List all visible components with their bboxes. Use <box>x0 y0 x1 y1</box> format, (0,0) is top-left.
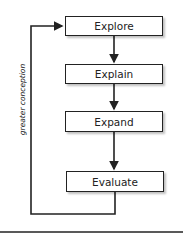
loop-label: greater conception <box>18 63 27 137</box>
stage-label: Explain <box>95 68 133 80</box>
stage-evaluate: Evaluate <box>66 171 164 192</box>
stage-explore: Explore <box>65 16 163 36</box>
stage-label: Evaluate <box>92 176 138 188</box>
stage-label: Explore <box>94 20 133 32</box>
stage-explain: Explain <box>65 64 163 84</box>
stage-label: Expand <box>94 116 133 128</box>
stage-expand: Expand <box>65 111 163 132</box>
